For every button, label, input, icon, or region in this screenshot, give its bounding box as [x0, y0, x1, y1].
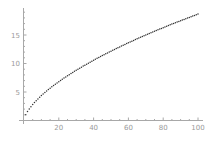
data-point	[128, 42, 130, 44]
data-point	[155, 30, 157, 32]
data-point	[136, 38, 138, 40]
chart: 51015 20406080100	[0, 0, 216, 142]
data-point	[183, 19, 185, 21]
data-point	[133, 40, 135, 42]
data-point	[171, 23, 173, 25]
data-point	[32, 104, 34, 106]
data-point	[42, 93, 44, 95]
data-point	[187, 17, 189, 19]
data-point	[98, 57, 100, 59]
x-tick-label: 100	[191, 124, 204, 132]
data-point	[168, 25, 170, 27]
data-point	[190, 16, 192, 18]
data-point	[166, 25, 168, 27]
data-point	[84, 64, 86, 66]
data-point	[180, 20, 182, 22]
data-point	[129, 41, 131, 43]
data-point	[56, 82, 58, 84]
data-point	[154, 31, 156, 32]
data-point	[39, 96, 41, 98]
y-tick-label: 10	[11, 60, 20, 68]
data-point	[161, 28, 163, 30]
y-axis-ticks: 51015	[11, 12, 26, 115]
data-point	[126, 43, 128, 45]
data-point	[178, 21, 180, 23]
data-point	[135, 39, 137, 41]
data-point	[30, 106, 32, 108]
data-point	[185, 18, 187, 20]
data-point	[28, 108, 30, 110]
data-point	[176, 21, 178, 23]
x-tick-label: 20	[54, 124, 63, 132]
x-tick-label: 40	[89, 124, 98, 132]
data-point	[75, 70, 77, 72]
data-point	[82, 65, 84, 67]
data-point	[157, 29, 159, 31]
data-point	[95, 59, 97, 61]
data-point	[107, 52, 109, 54]
data-point	[58, 81, 60, 83]
data-point	[173, 23, 175, 25]
data-point	[112, 50, 114, 52]
data-point	[74, 71, 76, 73]
data-point	[105, 53, 107, 55]
data-point	[121, 45, 123, 47]
data-point	[149, 33, 151, 35]
data-point	[51, 86, 53, 88]
data-point	[37, 98, 39, 100]
data-point	[124, 44, 126, 46]
data-point	[117, 47, 119, 49]
data-point	[63, 77, 65, 79]
data-point	[96, 58, 98, 60]
data-point	[55, 83, 57, 85]
data-point	[147, 34, 149, 36]
data-point	[44, 92, 46, 94]
data-point	[122, 45, 124, 47]
data-point	[169, 24, 171, 26]
data-point	[53, 85, 55, 87]
data-point	[143, 35, 145, 37]
data-point	[67, 75, 69, 77]
x-tick-label: 60	[124, 124, 133, 132]
data-point	[65, 76, 67, 78]
data-point	[142, 36, 144, 38]
data-point	[35, 100, 37, 102]
data-point	[114, 49, 116, 51]
data-point	[197, 13, 199, 15]
data-point	[182, 19, 184, 21]
data-point	[70, 73, 72, 75]
data-point	[68, 74, 70, 76]
data-point	[145, 34, 147, 36]
data-point	[103, 54, 105, 56]
data-point	[49, 87, 51, 89]
data-point	[93, 60, 95, 62]
data-point	[77, 69, 79, 71]
data-point	[25, 114, 27, 116]
data-point	[48, 89, 50, 91]
data-point	[150, 32, 152, 34]
y-tick-label: 5	[16, 89, 20, 97]
x-axis-ticks: 20406080100	[33, 118, 205, 132]
data-point	[34, 102, 36, 104]
data-point	[140, 37, 142, 39]
data-point	[27, 111, 29, 113]
data-series	[25, 13, 199, 115]
data-point	[196, 14, 198, 16]
data-point	[192, 15, 194, 17]
data-point	[162, 27, 164, 29]
x-tick-label: 80	[159, 124, 168, 132]
data-point	[62, 79, 64, 81]
y-axis: 51015	[11, 8, 26, 124]
data-point	[72, 72, 74, 74]
data-point	[152, 31, 154, 33]
data-point	[119, 46, 121, 48]
data-point	[175, 22, 177, 24]
x-axis: 20406080100	[19, 118, 205, 132]
data-point	[100, 56, 102, 58]
data-point	[102, 55, 104, 57]
data-point	[164, 26, 166, 28]
data-point	[138, 37, 140, 39]
data-point	[115, 48, 117, 50]
data-point	[41, 95, 43, 97]
data-point	[194, 15, 196, 17]
